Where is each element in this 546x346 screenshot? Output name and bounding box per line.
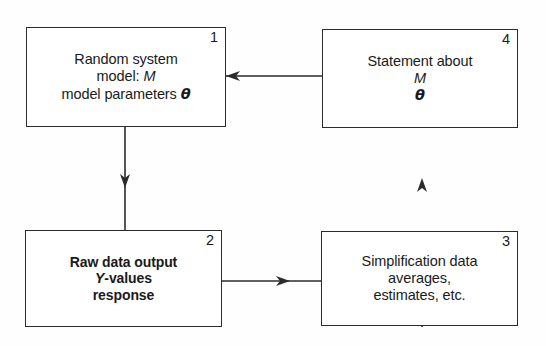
node-2-line-2: Y-values (95, 270, 152, 287)
node-1-line-2: model: M (97, 68, 156, 85)
node-number-1: 1 (210, 30, 218, 45)
node-4-symbol-theta: θ (415, 87, 425, 104)
node-2-line-2-suffix: -values (104, 270, 152, 286)
node-1-line-3-prefix: model parameters (61, 86, 180, 102)
edge-1-to-2 (120, 127, 130, 230)
edge-4-to-1 (226, 71, 322, 81)
node-2-symbol-y: Y (95, 270, 104, 286)
node-random-system-model[interactable]: 1 Random system model: M model parameter… (26, 27, 226, 127)
node-number-3: 3 (502, 234, 510, 249)
node-3-line-3: estimates, etc. (374, 287, 466, 304)
node-raw-data-output[interactable]: 2 Raw data output Y-values response (25, 230, 222, 327)
node-4-symbol-m: M (414, 70, 426, 87)
node-1-symbol-theta: θ (181, 86, 191, 102)
diagram-canvas: 1 Random system model: M model parameter… (0, 0, 546, 346)
node-2-line-1: Raw data output (70, 254, 177, 271)
node-statement-about[interactable]: 4 Statement about M θ (322, 29, 518, 128)
node-1-line-2-prefix: model: (97, 68, 144, 84)
node-number-2: 2 (206, 233, 214, 248)
node-simplification-data[interactable]: 3 Simplification data averages, estimate… (321, 231, 518, 326)
node-4-line-1: Statement about (368, 53, 473, 70)
node-3-line-2: averages, (388, 270, 451, 287)
node-2-line-3: response (93, 287, 154, 304)
node-1-symbol-m: M (143, 68, 155, 84)
node-1-line-3: model parameters θ (61, 86, 190, 103)
node-number-4: 4 (502, 32, 510, 47)
node-1-line-1: Random system (74, 51, 177, 68)
node-3-line-1: Simplification data (362, 253, 478, 270)
edge-2-to-3 (222, 276, 321, 286)
